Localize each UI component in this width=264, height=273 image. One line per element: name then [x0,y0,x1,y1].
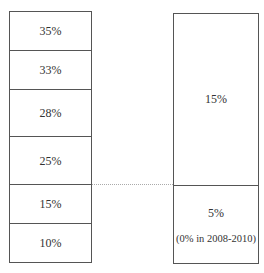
segment-label: 5% [208,206,224,221]
segment-note: (0% in 2008-2010) [176,233,256,244]
segment-label: 25% [40,154,62,169]
right-segment-1: 15% [174,14,258,185]
left-segment-3: 28% [10,89,91,136]
dotted-connector [92,184,173,185]
right-segment-2: 5% (0% in 2008-2010) [174,185,258,264]
left-segment-5: 15% [10,184,91,224]
segment-label: 15% [40,197,62,212]
left-segment-4: 25% [10,136,91,185]
segment-label: 28% [40,106,62,121]
left-segment-6: 10% [10,223,91,263]
left-stack: 35% 33% 28% 25% 15% 10% [9,11,92,263]
segment-label: 10% [40,236,62,251]
segment-label: 15% [205,92,227,107]
left-segment-2: 33% [10,50,91,89]
right-stack: 15% 5% (0% in 2008-2010) [173,13,259,264]
left-segment-1: 35% [10,12,91,50]
segment-label: 35% [40,24,62,39]
segment-label: 33% [40,63,62,78]
